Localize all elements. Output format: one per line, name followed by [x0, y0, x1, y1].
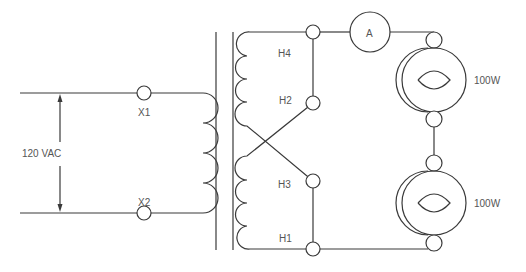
terminal-x1	[137, 86, 151, 100]
lamp-1	[396, 32, 466, 127]
primary-winding-lower	[235, 103, 313, 249]
primary-winding-upper	[235, 32, 313, 181]
lamp-2	[396, 155, 466, 251]
label-h1: H1	[279, 233, 292, 244]
terminal-h4	[306, 25, 320, 39]
label-h4: H4	[278, 48, 291, 59]
label-x1: X1	[138, 107, 151, 118]
lamp1-bulb-icon	[402, 48, 466, 112]
lamp1-terminal-bottom	[426, 111, 442, 127]
voltage-label: 120 VAC	[22, 148, 61, 159]
terminal-h3	[306, 174, 320, 188]
lamp2-label: 100W	[474, 198, 501, 209]
ammeter-label: A	[366, 28, 373, 39]
lamp2-terminal-top	[426, 155, 442, 171]
circuit-diagram: 120 VAC X1 X2 H4 H2 H3 H1 A 100W	[0, 0, 526, 272]
lamp2-terminal-bottom	[426, 235, 442, 251]
lamp2-bulb-icon	[402, 171, 466, 235]
label-h2: H2	[279, 95, 292, 106]
terminal-h2	[306, 96, 320, 110]
label-x2: X2	[138, 197, 151, 208]
lamp1-label: 100W	[474, 75, 501, 86]
terminal-x2	[137, 206, 151, 220]
lamp1-terminal-top	[426, 32, 442, 48]
label-h3: H3	[278, 179, 291, 190]
terminal-h1	[306, 242, 320, 256]
secondary-winding	[151, 93, 218, 213]
